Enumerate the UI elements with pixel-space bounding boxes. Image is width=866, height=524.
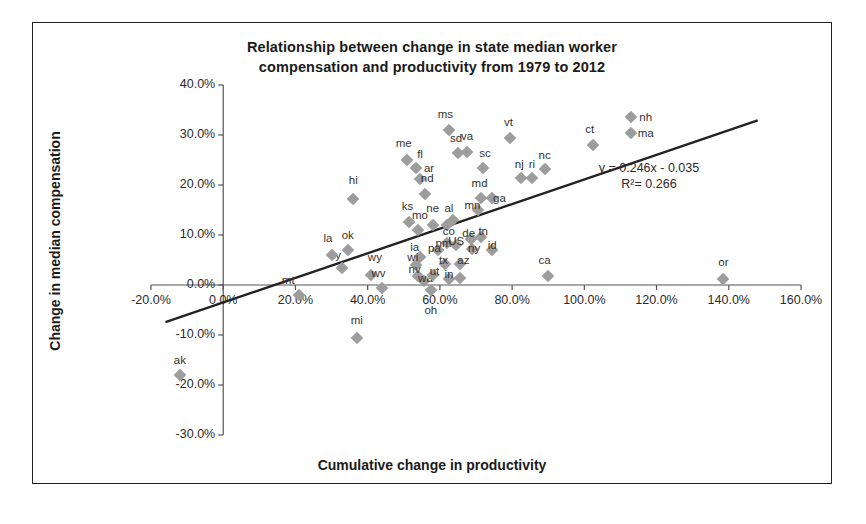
data-point-label: mt: [282, 274, 295, 286]
data-point-label: wy: [368, 251, 382, 263]
x-tick-label: 160.0%: [771, 293, 831, 307]
data-point-label: tx: [439, 254, 448, 266]
y-tick-label: -10.0%: [161, 327, 215, 341]
x-tick-label: 140.0%: [699, 293, 759, 307]
y-tick-label: -20.0%: [161, 377, 215, 391]
x-tick-label: 100.0%: [554, 293, 614, 307]
data-point-label: al: [444, 202, 453, 214]
chart-title-line-2: compensation and productivity from 1979 …: [33, 57, 831, 77]
data-point-label: nh: [639, 111, 652, 123]
data-point-label: ut: [430, 265, 440, 277]
plot-area: 40.0%30.0%20.0%10.0%0.0%-10.0%-20.0%-30.…: [151, 85, 801, 435]
x-tick-label: 60.0%: [410, 293, 470, 307]
data-point-label: la: [323, 232, 332, 244]
x-tick-label: -20.0%: [121, 293, 181, 307]
y-tick-label: 0.0%: [161, 277, 215, 291]
data-point-label: ms: [438, 108, 453, 120]
x-tick-label: 40.0%: [338, 293, 398, 307]
y-tick-label: 30.0%: [161, 127, 215, 141]
data-point-label: vt: [504, 116, 513, 128]
chart-title: Relationship between change in state med…: [33, 37, 831, 77]
data-point-label: ct: [585, 123, 594, 135]
data-point-label: id: [488, 239, 497, 251]
data-point-label: me: [396, 137, 412, 149]
data-point-label: ca: [539, 254, 551, 266]
data-point-label: wv: [371, 267, 385, 279]
trendline-equation: y = 0.246x - 0.035 R²= 0.266: [599, 160, 699, 192]
chart-title-line-1: Relationship between change in state med…: [33, 37, 831, 57]
data-point-label: ga: [493, 192, 506, 204]
y-axis-title: Change in median compensation: [47, 71, 63, 411]
data-point-label: az: [457, 254, 469, 266]
data-point-label: md: [472, 177, 488, 189]
data-point-label: or: [718, 256, 728, 268]
data-point-label: mi: [351, 314, 363, 326]
x-tick-label: 80.0%: [482, 293, 542, 307]
data-point-label: oh: [424, 304, 437, 316]
x-tick-label: 0.0%: [193, 293, 253, 307]
y-tick-label: 10.0%: [161, 227, 215, 241]
y-tick-label: -30.0%: [161, 427, 215, 441]
data-point-label: wi: [407, 251, 418, 263]
y-tick-label: 40.0%: [161, 77, 215, 91]
data-point-label: de: [462, 227, 475, 239]
chart-frame: Relationship between change in state med…: [32, 22, 832, 484]
x-axis-title: Cumulative change in productivity: [33, 457, 831, 473]
data-point-label: hi: [349, 174, 358, 186]
plot-svg: [151, 85, 801, 435]
y-tick-label: 20.0%: [161, 177, 215, 191]
data-point-label: ri: [529, 158, 535, 170]
data-point-label: sc: [479, 147, 491, 159]
data-point-label: ny: [468, 242, 480, 254]
data-point-label: ak: [174, 354, 186, 366]
data-point-label: tn: [478, 225, 488, 237]
data-point-label: nj: [515, 158, 524, 170]
trendline-equation-text: y = 0.246x - 0.035: [599, 160, 699, 176]
x-tick-label: 120.0%: [627, 293, 687, 307]
data-point-label: ma: [638, 127, 654, 139]
data-point-label: ok: [342, 229, 354, 241]
data-point-label: va: [461, 130, 473, 142]
data-point-label: nd: [421, 172, 434, 184]
data-point-label: fl: [417, 148, 423, 160]
trendline-r2-text: R²= 0.266: [599, 176, 699, 192]
data-point-label: ne: [426, 202, 439, 214]
data-point-label: in: [444, 268, 453, 280]
data-point-label: nc: [539, 149, 551, 161]
